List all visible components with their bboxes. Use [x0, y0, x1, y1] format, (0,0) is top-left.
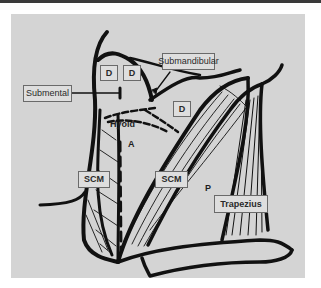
label-digastric-1: D	[100, 65, 118, 81]
label-trapezius: Trapezius	[214, 195, 268, 213]
label-anterior-triangle: A	[128, 140, 135, 149]
neck-anatomy-drawing	[0, 0, 321, 288]
label-hyoid: Hyoid	[110, 120, 135, 129]
label-scm-right: SCM	[155, 171, 188, 188]
label-digastric-3: D	[173, 101, 191, 117]
label-digastric-2: D	[123, 65, 141, 81]
label-posterior-triangle: P	[205, 184, 211, 193]
label-submental: Submental	[23, 85, 72, 102]
label-scm-left: SCM	[78, 171, 110, 188]
label-submandibular: Submandibular	[162, 53, 215, 70]
